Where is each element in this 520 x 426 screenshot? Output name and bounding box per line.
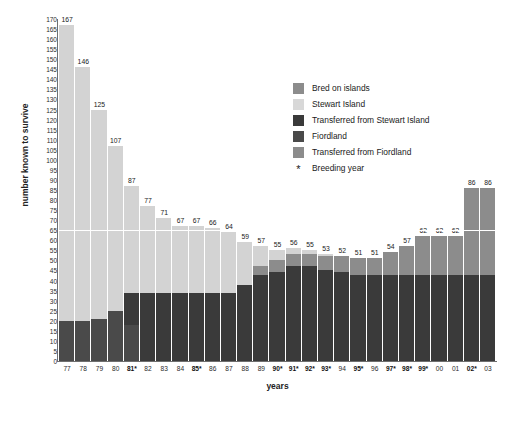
bar-value-label: 77 <box>144 197 152 205</box>
bar-column[interactable]: 107 <box>108 19 124 361</box>
bar-column[interactable]: 55 <box>302 19 318 361</box>
bar-column[interactable]: 62 <box>431 19 447 361</box>
x-axis-tick-label: 93* <box>318 364 334 378</box>
bar-segment <box>318 270 333 361</box>
bar-value-label: 71 <box>160 209 168 217</box>
bar-value-label: 67 <box>193 217 201 225</box>
x-axis-tick-label: 99* <box>415 364 431 378</box>
asterisk-icon: * <box>293 163 304 174</box>
bar-column[interactable]: 125 <box>91 19 107 361</box>
bar-value-label: 53 <box>322 245 330 253</box>
legend-item[interactable]: Fiordland <box>293 128 498 144</box>
bar-segment <box>464 275 479 362</box>
bar-column[interactable]: 57 <box>399 19 415 361</box>
bar-column[interactable]: 51 <box>350 19 366 361</box>
bar-value-label: 57 <box>403 237 411 245</box>
y-axis-tick-label: 70 <box>50 217 57 224</box>
bar-stack <box>189 226 205 361</box>
x-axis-tick-label: 88 <box>237 364 253 378</box>
bar-stack <box>253 246 269 361</box>
y-axis-tick-label: 140 <box>46 76 57 83</box>
x-axis-tick-label: 86 <box>205 364 221 378</box>
bar-column[interactable]: 67 <box>189 19 205 361</box>
bar-column[interactable]: 53 <box>318 19 334 361</box>
y-axis-tick-label: 40 <box>50 277 57 284</box>
bar-value-label: 107 <box>110 137 121 145</box>
y-axis-tick-label: 125 <box>46 106 57 113</box>
bar-segment <box>124 186 139 293</box>
legend-item-label: Breeding year <box>312 163 364 173</box>
bar-column[interactable]: 62 <box>448 19 464 361</box>
x-axis-tick-label: 95* <box>350 364 366 378</box>
bar-stack <box>415 236 431 361</box>
bar-segment <box>189 226 204 292</box>
bar-stack <box>269 250 285 361</box>
bar-value-label: 56 <box>290 239 298 247</box>
bar-segment <box>253 266 268 274</box>
x-axis-tick-label: 77 <box>59 364 75 378</box>
legend-item[interactable]: Stewart Island <box>293 96 498 112</box>
legend-swatch-icon <box>293 131 304 142</box>
legend-swatch-icon <box>293 99 304 110</box>
legend-item-label: Fiordland <box>312 131 347 141</box>
bar-segment <box>253 275 268 362</box>
bar-segment <box>480 275 495 362</box>
legend-swatch-icon <box>293 115 304 126</box>
legend-item[interactable]: Transferred from Stewart Island <box>293 112 498 128</box>
y-axis-tick-label: 35 <box>50 287 57 294</box>
bar-column[interactable]: 62 <box>415 19 431 361</box>
bar-segment <box>140 206 155 293</box>
bar-column[interactable]: 52 <box>334 19 350 361</box>
bar-column[interactable]: 56 <box>286 19 302 361</box>
bar-value-label: 52 <box>339 247 347 255</box>
bar-segment <box>156 218 171 292</box>
bar-value-label: 87 <box>128 177 136 185</box>
legend-item[interactable]: Bred on islands <box>293 80 498 96</box>
y-axis-tick-label: 80 <box>50 197 57 204</box>
bar-segment <box>464 188 479 275</box>
bar-column[interactable]: 54 <box>383 19 399 361</box>
bar-column[interactable]: 146 <box>75 19 91 361</box>
bar-column[interactable]: 57 <box>253 19 269 361</box>
bar-column[interactable]: 55 <box>269 19 285 361</box>
bar-segment <box>221 293 236 361</box>
y-axis-tick-label: 150 <box>46 56 57 63</box>
x-axis-tick-label: 80 <box>108 364 124 378</box>
bar-segment <box>140 293 155 361</box>
bar-value-label: 86 <box>468 179 476 187</box>
x-axis-tick-label: 98* <box>399 364 415 378</box>
bar-segment <box>415 275 430 362</box>
bar-stack <box>91 110 107 361</box>
legend-item[interactable]: *Breeding year <box>293 160 498 176</box>
bar-stack <box>140 206 156 361</box>
bar-stack <box>399 246 415 361</box>
bar-column[interactable]: 86 <box>480 19 496 361</box>
y-axis-tick-label: 110 <box>47 136 57 143</box>
bar-stack <box>318 254 334 361</box>
y-axis-tick-label: 25 <box>50 307 57 314</box>
bar-column[interactable]: 71 <box>156 19 172 361</box>
bar-column[interactable]: 51 <box>367 19 383 361</box>
y-axis-tick-label: 75 <box>50 207 57 214</box>
bar-column[interactable]: 77 <box>140 19 156 361</box>
x-axis-tick-label: 82 <box>140 364 156 378</box>
legend-item[interactable]: Transferred from Fiordland <box>293 144 498 160</box>
bar-value-label: 167 <box>61 16 72 24</box>
bar-column[interactable]: 86 <box>464 19 480 361</box>
bar-segment <box>205 228 220 292</box>
bar-column[interactable]: 67 <box>172 19 188 361</box>
bar-segment <box>124 293 139 325</box>
bar-column[interactable]: 64 <box>221 19 237 361</box>
bar-segment <box>269 272 284 361</box>
y-axis-tick-label: 55 <box>50 247 57 254</box>
bar-column[interactable]: 167 <box>59 19 75 361</box>
bar-segment <box>448 275 463 362</box>
bar-segment <box>399 275 414 362</box>
bar-column[interactable]: 59 <box>237 19 253 361</box>
x-axis-tick-label: 00 <box>431 364 447 378</box>
bar-column[interactable]: 66 <box>205 19 221 361</box>
bar-column[interactable]: 87 <box>124 19 140 361</box>
x-axis-tick-label: 97* <box>383 364 399 378</box>
y-axis-tick-label: 65 <box>50 227 57 234</box>
bar-segment <box>91 319 106 361</box>
